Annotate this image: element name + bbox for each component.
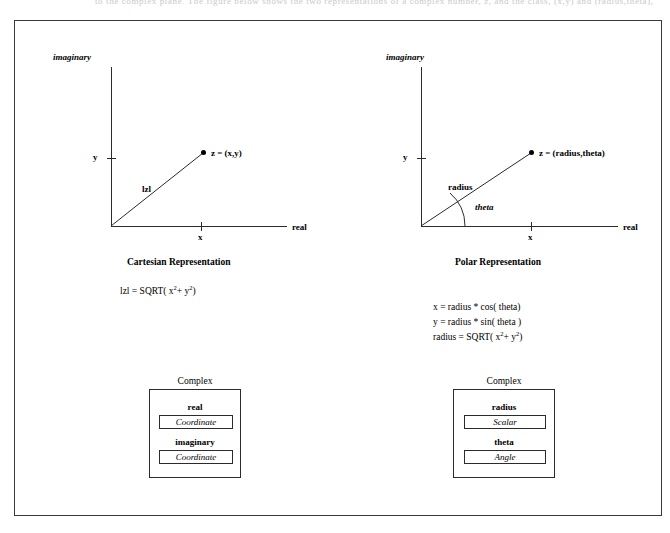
cartesian-formula-modulus: lzl = SQRT( x2+ y2) [120, 286, 196, 296]
polar-point-marker [529, 150, 534, 155]
cartesian-imaginary-axis-label: imaginary [53, 52, 91, 62]
cartesian-x-tick-label: x [198, 232, 203, 242]
cartesian-formula-mid: + y [177, 286, 189, 296]
polar-class-title: Complex [453, 376, 555, 386]
cartesian-real-axis-label: real [292, 222, 307, 232]
cartesian-formula-lhs: lzl = SQRT( x [120, 286, 174, 296]
polar-radius-vector [421, 152, 546, 228]
cartesian-attr-type-imaginary: Coordinate [159, 450, 233, 464]
polar-x-tick-label: x [528, 232, 533, 242]
cartesian-modulus-vector [111, 152, 206, 227]
polar-formula-x: x = radius * cos( theta) [433, 302, 520, 312]
polar-attr-type-theta: Angle [464, 450, 546, 464]
cartesian-formula-rhs: ) [193, 286, 196, 296]
polar-y-tick-label: y [403, 152, 408, 162]
cartesian-attr-name-imaginary: imaginary [150, 437, 240, 447]
cartesian-point-marker [201, 150, 206, 155]
polar-formula-lhs: radius = SQRT( x [433, 332, 500, 342]
cartesian-attr-name-real: real [150, 402, 240, 412]
figure-page: to the complex plane. The figure below s… [0, 0, 670, 533]
cartesian-attr-type-real: Coordinate [159, 415, 233, 429]
polar-caption: Polar Representation [455, 257, 541, 267]
polar-attr-name-radius: radius [454, 402, 554, 412]
polar-class-box: radius Scalar theta Angle [453, 389, 555, 478]
polar-point-label: z = (radius,theta) [539, 148, 605, 158]
cartesian-point-label: z = (x,y) [211, 148, 242, 158]
polar-angle-label: theta [475, 202, 494, 212]
polar-real-axis-label: real [623, 222, 638, 232]
polar-formula-rhs: ) [519, 332, 522, 342]
polar-vector-label: radius [448, 182, 473, 192]
polar-formula-mid: + y [504, 332, 516, 342]
polar-attr-name-theta: theta [454, 437, 554, 447]
polar-attr-type-radius: Scalar [464, 415, 546, 429]
cartesian-y-tick-label: y [93, 152, 98, 162]
cartesian-class-box: real Coordinate imaginary Coordinate [149, 389, 241, 478]
cartesian-class-title: Complex [149, 376, 241, 386]
cartesian-caption: Cartesian Representation [127, 257, 231, 267]
cartesian-vector-label: lzl [142, 184, 151, 194]
polar-formula-radius: radius = SQRT( x2+ y2) [433, 332, 522, 342]
polar-formula-y: y = radius * sin( theta ) [433, 317, 521, 327]
polar-imaginary-axis-label: imaginary [386, 52, 424, 62]
page-above-bleed-text: to the complex plane. The figure below s… [95, 0, 655, 7]
figure-frame: imaginary real y x z = (x,y) lzl Cartesi… [14, 20, 662, 516]
